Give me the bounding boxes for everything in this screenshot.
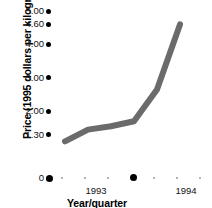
y-tick-dot-icon [46, 176, 51, 181]
plot-area [0, 0, 212, 208]
x-axis-title: Year/quarter [22, 197, 172, 208]
x-minor-tick-dot-icon [153, 177, 155, 179]
price-line-chart: Price (1995 dollars per kilogram) 5.004.… [0, 0, 212, 208]
x-major-tick-dot-icon [130, 174, 137, 181]
y-tick-dot-icon [46, 22, 51, 27]
data-series-line [0, 0, 212, 208]
x-minor-tick-dot-icon [84, 177, 86, 179]
y-tick-dot-icon [46, 9, 51, 14]
x-minor-tick-dot-icon [199, 177, 201, 179]
x-tick-label: 1994 [162, 186, 210, 196]
x-minor-tick-dot-icon [61, 177, 63, 179]
y-tick-dot-icon [46, 109, 51, 114]
x-minor-tick-dot-icon [176, 177, 178, 179]
x-minor-tick-dot-icon [107, 177, 109, 179]
x-tick-label: 1993 [72, 186, 120, 196]
y-tick-dot-icon [46, 42, 51, 47]
